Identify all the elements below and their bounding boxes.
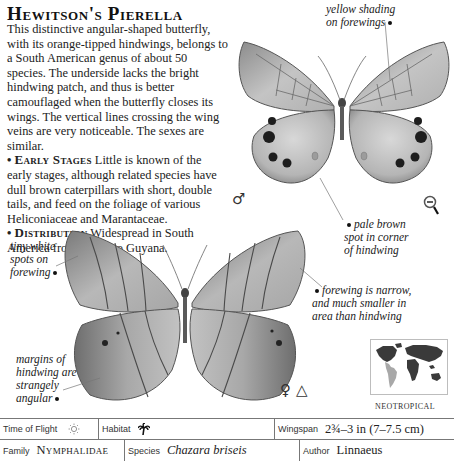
annotation-tiny-white-spots: tiny white spots on forewing xyxy=(10,240,60,279)
intro-text: This distinctive angular-shaped butterfl… xyxy=(7,22,229,153)
leader-dot xyxy=(53,271,57,275)
sun-icon xyxy=(68,423,80,435)
habitat-label: Habitat xyxy=(102,424,131,434)
early-stages-paragraph: • Early Stages Little is known of the ea… xyxy=(7,153,229,226)
habitat-cell: Habitat xyxy=(99,419,275,439)
author-value: Linnaeus xyxy=(337,443,383,458)
annotation-pale-brown-spot: pale brown spot in corner of hindwing xyxy=(344,218,409,257)
author-cell: Author Linnaeus xyxy=(300,440,454,461)
female-symbol: ♀ xyxy=(280,381,291,399)
species-label: Species xyxy=(128,446,160,456)
info-row-1: Time of Flight Habitat Wingspan 2¾–3 in … xyxy=(0,418,454,439)
info-table: Time of Flight Habitat Wingspan 2¾–3 in … xyxy=(0,418,454,461)
family-value: Nymphalidae xyxy=(37,443,109,458)
species-cell: Species Chazara briseis xyxy=(125,440,300,461)
female-butterfly-image xyxy=(60,225,310,410)
magnifier-minus-icon xyxy=(423,195,441,217)
annotation-margins-angular: margins of hindwing are strangely angula… xyxy=(16,353,77,405)
author-label: Author xyxy=(303,446,330,456)
world-map-icon xyxy=(371,340,447,394)
species-value: Chazara briseis xyxy=(167,443,247,458)
annotation-forewing-narrow: forewing is narrow, and much smaller in … xyxy=(312,284,411,323)
leader-dot xyxy=(347,223,351,227)
male-butterfly-image xyxy=(236,18,454,208)
region-label: NEOTROPICAL xyxy=(375,402,435,411)
annotation-yellow-shading: yellow shading on forewings xyxy=(326,3,395,29)
leader-dot xyxy=(55,397,59,401)
triangle-symbol: △ xyxy=(296,381,308,399)
wingspan-label: Wingspan xyxy=(278,424,318,434)
wingspan-cell: Wingspan 2¾–3 in (7–7.5 cm) xyxy=(275,419,454,439)
bullet: • xyxy=(7,226,11,240)
time-of-flight-label: Time of Flight xyxy=(3,424,57,434)
bullet: • xyxy=(7,153,11,167)
leader-dot xyxy=(388,21,392,25)
leader-dot xyxy=(315,289,319,293)
family-label: Family xyxy=(3,446,30,456)
time-of-flight-cell: Time of Flight xyxy=(0,419,99,439)
distribution-map xyxy=(370,339,448,395)
family-cell: Family Nymphalidae xyxy=(0,440,125,461)
palm-tree-icon xyxy=(138,423,150,436)
male-symbol: ♂ xyxy=(232,190,245,208)
wingspan-value: 2¾–3 in (7–7.5 cm) xyxy=(325,422,424,437)
info-row-2: Family Nymphalidae Species Chazara brise… xyxy=(0,439,454,461)
early-stages-label: Early Stages xyxy=(14,152,91,167)
description: This distinctive angular-shaped butterfl… xyxy=(7,22,229,256)
